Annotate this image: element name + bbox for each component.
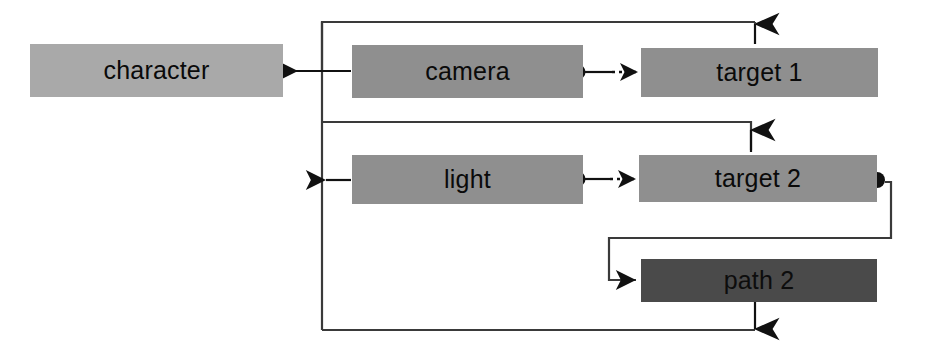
- edge-target2-to-bus: [322, 122, 751, 152]
- edge-camera-to-target1: [571, 65, 639, 80]
- camera-port-dot: [571, 65, 586, 80]
- edge-target2-to-path2: [609, 172, 891, 280]
- edge-light-to-target2: [571, 172, 637, 187]
- diagram-canvas: character camera target 1 light target 2…: [0, 0, 928, 352]
- target2-port-dot: [869, 172, 885, 188]
- edge-path2-to-bus: [322, 302, 755, 330]
- light-port-dot: [571, 172, 586, 187]
- diagram-connectors: [0, 0, 928, 352]
- edge-target1-to-bus: [322, 22, 755, 72]
